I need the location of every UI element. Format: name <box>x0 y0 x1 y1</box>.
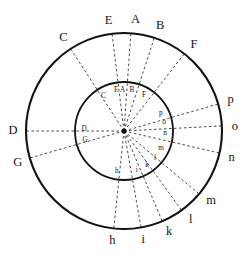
inner-label-A: A <box>120 86 126 94</box>
inner-label-D: D <box>81 125 86 133</box>
inner-label-h: h <box>115 167 119 175</box>
outer-label-m: m <box>206 193 216 207</box>
inner-label-o: o <box>162 118 166 126</box>
inner-label-l: l <box>154 154 156 162</box>
outer-label-k: k <box>166 224 173 238</box>
outer-label-i: i <box>142 232 146 246</box>
outer-label-A: A <box>131 12 140 26</box>
outer-label-B: B <box>156 18 164 32</box>
inner-label-F: F <box>142 91 146 99</box>
outer-label-h: h <box>109 233 116 247</box>
inner-label-i: i <box>136 166 138 174</box>
outer-label-o: o <box>232 119 238 133</box>
center-point <box>121 128 126 133</box>
outer-label-E: E <box>105 13 113 27</box>
outer-label-C: C <box>59 30 67 44</box>
inner-label-G: G <box>82 136 87 144</box>
concentric-circle-diagram: CEABFponmlkihGD CEABFponmlkihGD <box>0 0 249 262</box>
figure-root: CEABFponmlkihGD CEABFponmlkihGD <box>0 0 249 262</box>
outer-label-F: F <box>190 37 197 51</box>
outer-label-p: p <box>228 92 234 106</box>
inner-label-E: E <box>114 86 119 94</box>
inner-label-C: C <box>101 92 106 100</box>
inner-label-n: n <box>163 129 167 137</box>
inner-label-p: p <box>159 109 163 117</box>
inner-label-B: B <box>129 86 134 94</box>
outer-label-G: G <box>13 155 22 169</box>
inner-label-k: k <box>145 161 149 169</box>
outer-label-D: D <box>8 123 17 137</box>
outer-label-l: l <box>189 212 193 226</box>
outer-label-n: n <box>229 150 236 164</box>
inner-label-m: m <box>158 144 164 152</box>
